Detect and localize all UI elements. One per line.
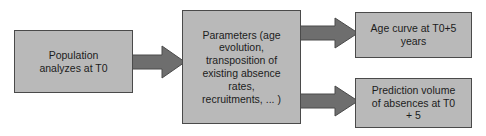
node-prediction-label: Prediction volume of absences at T0 + 5 [356, 84, 471, 122]
arrow-population-to-parameters [128, 44, 186, 80]
node-population-label: Population analyzes at T0 [15, 49, 132, 75]
node-age-curve: Age curve at T0+5 years [355, 12, 472, 58]
node-age-curve-label: Age curve at T0+5 years [356, 22, 471, 48]
node-population: Population analyzes at T0 [14, 30, 133, 93]
node-parameters-label: Parameters (age evolution, transposition… [183, 29, 300, 106]
arrow-parameters-to-prediction [297, 84, 359, 118]
node-prediction: Prediction volume of absences at T0 + 5 [355, 78, 472, 128]
arrow-parameters-to-age-curve [297, 16, 359, 50]
arrow-right-icon [128, 44, 186, 80]
flowchart-diagram: Population analyzes at T0 Parameters (ag… [0, 0, 486, 136]
node-parameters: Parameters (age evolution, transposition… [182, 10, 301, 124]
arrow-right-icon [297, 84, 359, 118]
arrow-right-icon [297, 16, 359, 50]
